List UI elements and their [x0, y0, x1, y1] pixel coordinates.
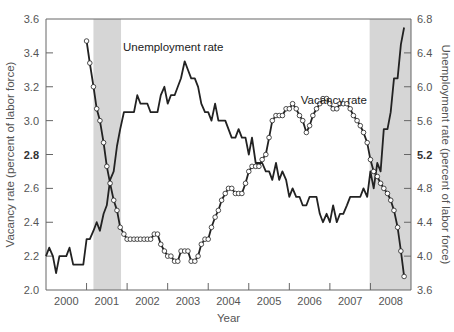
right-tick-label: 5.2: [417, 149, 432, 161]
data-marker: [361, 130, 366, 135]
data-marker: [304, 130, 309, 135]
data-marker: [223, 191, 228, 196]
data-marker: [246, 169, 251, 174]
series-labels: Unemployment rate Vacancy rate: [123, 41, 367, 106]
data-marker: [399, 249, 404, 254]
left-y-axis-title: Vacancy rate (percent of labor force): [4, 61, 16, 247]
data-marker: [260, 157, 265, 162]
data-marker: [297, 113, 302, 118]
left-tick-label: 2.4: [24, 216, 39, 228]
x-tick-label: 2002: [135, 295, 159, 307]
data-marker: [264, 152, 269, 157]
data-marker: [243, 181, 248, 186]
right-y-axis-title: Unemployment rate (percent of labor forc…: [440, 45, 452, 265]
data-marker: [196, 254, 201, 259]
data-marker: [348, 106, 353, 111]
data-marker: [280, 113, 285, 118]
data-marker: [257, 164, 262, 169]
x-tick-label: 2007: [338, 295, 362, 307]
left-tick-label: 2.2: [24, 250, 39, 262]
data-marker: [395, 225, 400, 230]
x-tick-label: 2004: [216, 295, 240, 307]
data-marker: [270, 118, 275, 123]
data-marker: [111, 198, 116, 203]
data-marker: [351, 113, 356, 118]
unemployment-rate-label: Unemployment rate: [123, 41, 223, 53]
data-marker: [358, 123, 363, 128]
data-marker: [219, 198, 224, 203]
left-tick-label: 2.0: [24, 284, 39, 296]
x-tick-label: 2005: [257, 295, 281, 307]
data-marker: [375, 174, 380, 179]
data-marker: [118, 225, 123, 230]
data-marker: [368, 157, 373, 162]
right-tick-label: 5.6: [417, 115, 432, 127]
data-marker: [193, 259, 198, 264]
left-tick-label: 3.6: [24, 13, 39, 25]
x-tick-label: 2003: [176, 295, 200, 307]
recession-band: [93, 19, 121, 290]
data-marker: [371, 169, 376, 174]
data-marker: [355, 118, 360, 123]
data-marker: [365, 140, 370, 145]
left-tick-label: 2.6: [24, 182, 39, 194]
data-marker: [122, 232, 127, 237]
data-marker: [300, 118, 305, 123]
x-tick-label: 2000: [54, 295, 78, 307]
vacancy-rate-line: [84, 39, 406, 279]
data-marker: [307, 123, 312, 128]
data-marker: [213, 215, 218, 220]
right-tick-label: 3.6: [417, 284, 432, 296]
data-marker: [186, 249, 191, 254]
data-marker: [314, 106, 319, 111]
x-tick-label: 2008: [378, 295, 402, 307]
data-marker: [169, 254, 174, 259]
x-axis-title: Year: [217, 312, 240, 324]
x-tick-label: 2001: [95, 295, 119, 307]
data-marker: [155, 232, 160, 237]
right-tick-label: 4.4: [417, 216, 432, 228]
data-marker: [378, 181, 383, 186]
right-tick-label: 6.8: [417, 13, 432, 25]
data-marker: [240, 191, 245, 196]
right-tick-label: 6.0: [417, 81, 432, 93]
left-tick-label: 3.2: [24, 81, 39, 93]
data-marker: [91, 84, 96, 89]
data-marker: [105, 164, 110, 169]
chart-container: 2.02.22.42.62.83.03.23.43.6 3.64.04.44.8…: [0, 0, 454, 332]
data-marker: [88, 61, 93, 66]
data-marker: [94, 106, 99, 111]
right-tick-label: 6.4: [417, 47, 432, 59]
data-marker: [98, 118, 103, 123]
data-marker: [290, 101, 295, 106]
data-marker: [158, 242, 163, 247]
data-marker: [385, 191, 390, 196]
left-y-axis: 2.02.22.42.62.83.03.23.43.6: [24, 13, 53, 296]
data-marker: [162, 249, 167, 254]
right-tick-label: 4.0: [417, 250, 432, 262]
data-marker: [267, 135, 272, 140]
left-tick-label: 3.0: [24, 115, 39, 127]
data-marker: [148, 237, 153, 242]
data-marker: [382, 186, 387, 191]
data-marker: [402, 274, 407, 279]
data-marker: [101, 140, 106, 145]
recession-shading: [93, 19, 411, 290]
data-marker: [108, 181, 113, 186]
data-marker: [199, 242, 204, 247]
vacancy-rate-label: Vacancy rate: [301, 94, 367, 106]
data-marker: [115, 208, 120, 213]
dual-axis-line-chart: 2.02.22.42.62.83.03.23.43.6 3.64.04.44.8…: [0, 0, 454, 332]
data-marker: [287, 106, 292, 111]
data-marker: [209, 225, 214, 230]
data-marker: [392, 208, 397, 213]
left-tick-label: 2.8: [24, 149, 39, 161]
data-marker: [388, 198, 393, 203]
right-tick-label: 4.8: [417, 182, 432, 194]
data-marker: [206, 237, 211, 242]
data-marker: [294, 106, 299, 111]
data-marker: [216, 208, 221, 213]
data-marker: [311, 113, 316, 118]
data-marker: [334, 106, 339, 111]
data-marker: [229, 186, 234, 191]
